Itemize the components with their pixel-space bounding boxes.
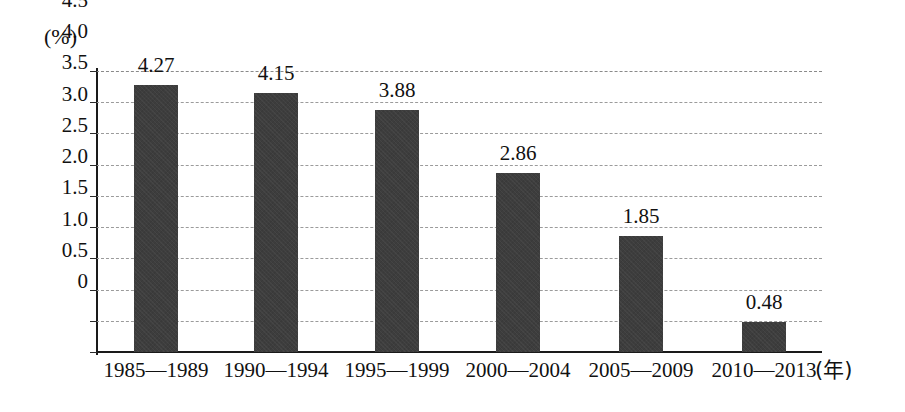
- y-axis-tick: [90, 165, 97, 166]
- x-axis-category-label: 1995—1999: [327, 360, 467, 381]
- y-axis-tick-label: 2.5: [44, 115, 88, 136]
- gridline: [96, 133, 822, 134]
- x-axis-category-label: 2010—2013: [694, 360, 834, 381]
- y-axis-tick-label: 3.0: [44, 84, 88, 105]
- x-axis-category-label: 1990—1994: [206, 360, 346, 381]
- y-axis-tick-label: 2.0: [44, 146, 88, 167]
- gridline: [96, 196, 822, 197]
- x-axis-category-label: 2005—2009: [571, 360, 711, 381]
- gridline: [96, 290, 822, 291]
- y-axis-tick: [90, 102, 97, 103]
- bar-chart: (%) 00.51.01.52.02.53.03.54.04.5 4.274.1…: [0, 0, 905, 412]
- y-axis-tick-label: 1.5: [44, 177, 88, 198]
- y-axis-tick: [90, 352, 97, 353]
- bar-value-label: 3.88: [352, 80, 442, 101]
- gridline: [96, 71, 822, 72]
- bar-value-label: 4.15: [231, 63, 321, 84]
- y-axis-tick: [90, 227, 97, 228]
- y-axis-tick-label: 4.0: [44, 21, 88, 42]
- y-axis-tick-label: 0: [44, 271, 88, 292]
- bar-value-label: 2.86: [473, 143, 563, 164]
- y-axis-tick-label: 4.5: [44, 0, 88, 11]
- bar: [254, 93, 298, 352]
- y-axis-tick: [90, 321, 97, 322]
- bar-value-label: 0.48: [719, 292, 809, 313]
- gridline: [96, 102, 822, 103]
- y-axis-tick: [90, 133, 97, 134]
- bar-value-label: 4.27: [111, 55, 201, 76]
- y-axis-tick: [90, 258, 97, 259]
- x-axis-unit-label: (年): [815, 360, 852, 381]
- gridline: [96, 165, 822, 166]
- bar: [134, 85, 178, 352]
- bar: [375, 110, 419, 352]
- gridline: [96, 321, 822, 322]
- y-axis-tick: [90, 71, 97, 72]
- bar-value-label: 1.85: [596, 206, 686, 227]
- bar: [742, 322, 786, 352]
- y-axis-tick: [90, 196, 97, 197]
- y-axis-tick: [90, 290, 97, 291]
- y-axis-tick-label: 1.0: [44, 209, 88, 230]
- y-axis-tick-label: 3.5: [44, 52, 88, 73]
- bar: [496, 173, 540, 352]
- x-axis-category-label: 1985—1989: [86, 360, 226, 381]
- x-axis-category-label: 2000—2004: [448, 360, 588, 381]
- gridline: [96, 227, 822, 228]
- gridline: [96, 258, 822, 259]
- y-axis-tick-labels: 00.51.01.52.02.53.03.54.04.5: [40, 0, 88, 281]
- bar: [619, 236, 663, 352]
- y-axis-tick-label: 0.5: [44, 240, 88, 261]
- plot-area: [96, 71, 822, 352]
